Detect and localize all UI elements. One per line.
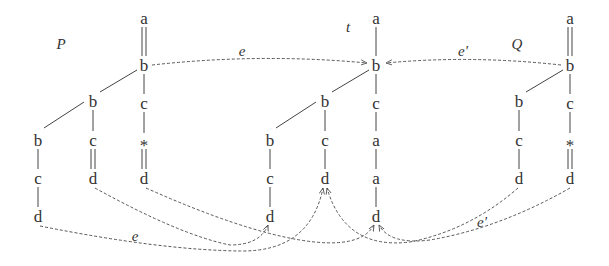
mapping-arrows (40, 58, 570, 251)
tree-node-t-t_a3: a (372, 169, 380, 188)
nodes-layer: abc*dbcdbcdabcaadbcdbcdabc*dbcd (34, 9, 575, 226)
tree-node-t-t_mc: c (321, 131, 329, 150)
tree-node-p-p_md: d (89, 169, 98, 188)
edge-label-e-bottom: e (132, 228, 139, 244)
tree-node-p-p_b: b (140, 56, 149, 75)
tree-embedding-diagram: abc*dbcdbcdabcaadbcdbcdabc*dbcd P t Q e … (0, 0, 609, 266)
arrow-e-pmd (95, 188, 268, 245)
tree-node-p-p_d: d (140, 169, 149, 188)
edge-label-e-top: e (239, 43, 246, 59)
tree-node-p-p_star: * (140, 136, 149, 155)
edge-label-e-prime-top: e' (458, 43, 469, 59)
tree-node-t-t_b: b (372, 56, 381, 75)
tree-node-q-q_d: d (566, 169, 575, 188)
tree-node-q-q_c: c (566, 94, 574, 113)
tree-node-q-q_b: b (566, 56, 575, 75)
tree-node-t-t_c: c (372, 94, 380, 113)
arrow-e-prime-qmd (327, 188, 518, 243)
tree-node-p-p_lb: b (34, 131, 43, 150)
tree-node-q-q_mc: c (515, 131, 523, 150)
tree-node-q-q_mb: b (515, 92, 524, 111)
tree-label-p: P (55, 36, 65, 52)
tree-node-t-t_mb: b (321, 92, 330, 111)
tree-node-p-p_a: a (140, 9, 148, 28)
tree-node-p-p_mc: c (89, 131, 97, 150)
arrow-e-prime-top (386, 59, 561, 65)
tree-node-p-p_lc: c (34, 169, 42, 188)
tree-node-t-t_lc: c (266, 169, 274, 188)
arrow-e-pld (40, 188, 323, 251)
tree-node-t-t_md: d (321, 169, 330, 188)
tree-label-t: t (346, 19, 351, 35)
arrow-e-top (152, 58, 367, 65)
edge-label-e-prime-bottom: e' (477, 214, 488, 230)
tree-q-edges (519, 27, 572, 169)
tree-node-t-t_a: a (372, 9, 380, 28)
tree-node-t-t_a2: a (372, 131, 380, 150)
tree-node-t-t_ld: d (266, 207, 275, 226)
tree-node-q-q_star: * (566, 136, 575, 155)
arrow-e-prime-qd (379, 188, 570, 241)
tree-label-q: Q (512, 36, 523, 52)
tree-node-p-p_ld: d (34, 207, 43, 226)
tree-node-p-p_c: c (140, 94, 148, 113)
tree-node-p-p_mb: b (89, 92, 98, 111)
tree-node-t-t_d: d (372, 207, 381, 226)
tree-node-q-q_a: a (566, 9, 574, 28)
tree-node-t-t_lb: b (266, 131, 275, 150)
tree-node-q-q_md: d (515, 169, 524, 188)
